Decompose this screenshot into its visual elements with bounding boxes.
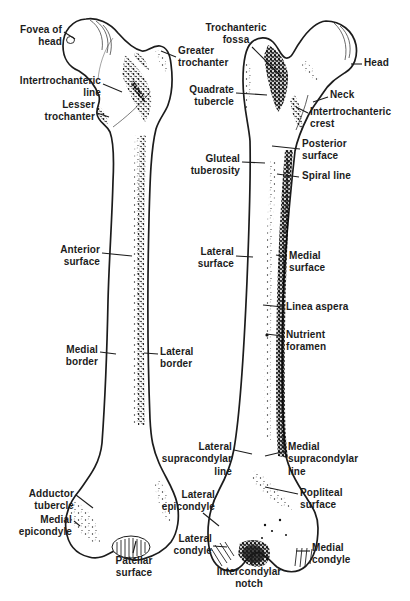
label-intertrochanteric-line: Intertrochanteric line xyxy=(10,75,101,100)
label-intercondylar-notch: Intercondylar notch xyxy=(204,566,294,591)
label-lateral-supracondylar-line: Lateral supracondylar line xyxy=(158,441,232,478)
label-spiral-line: Spiral line xyxy=(302,170,358,182)
label-anterior-surface: Anterior surface xyxy=(54,244,100,269)
label-gluteal-tuberosity: Gluteal tuberosity xyxy=(186,153,240,178)
label-greater-trochanter: Greater trochanter xyxy=(178,45,236,70)
label-popliteal-surface: Popliteal surface xyxy=(300,487,348,512)
label-lesser-trochanter: Lesser trochanter xyxy=(39,99,95,124)
label-neck: Neck xyxy=(330,89,364,101)
label-patellar-surface: Patellar surface xyxy=(108,555,160,580)
label-medial-border: Medial border xyxy=(54,344,98,369)
label-nutrient-foramen: Nutrient foramen xyxy=(286,329,334,354)
label-medial-supracondylar-line: Medial supracondylar line xyxy=(288,441,364,478)
label-quadrate-tubercle: Quadrate tubercle xyxy=(180,84,234,109)
label-intertrochanteric-crest: Intertrochanteric crest xyxy=(310,106,402,131)
label-medial-epicondyle: Medial epicondyle xyxy=(16,514,72,539)
label-posterior-surface: Posterior surface xyxy=(302,138,350,163)
label-adductor-tubercle: Adductor tubercle xyxy=(24,488,74,513)
femur-diagram: Fovea of head Greater trochanter Intertr… xyxy=(0,0,410,601)
label-linea-aspera: Linea aspera xyxy=(286,301,350,313)
label-head: Head xyxy=(364,57,398,69)
label-medial-condyle: Medial condyle xyxy=(312,542,360,567)
label-lateral-epicondyle: Lateral epicondyle xyxy=(159,489,215,514)
label-fovea-of-head: Fovea of head xyxy=(14,24,62,49)
label-trochanteric-fossa: Trochanteric fossa xyxy=(202,22,270,47)
label-lateral-surface: Lateral surface xyxy=(190,246,234,271)
label-lateral-condyle: Lateral condyle xyxy=(166,533,212,558)
label-medial-surface: Medial surface xyxy=(289,250,335,275)
label-lateral-border: Lateral border xyxy=(160,346,206,371)
